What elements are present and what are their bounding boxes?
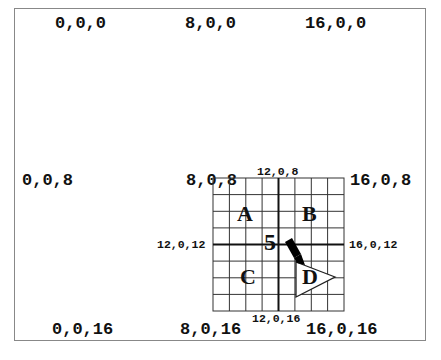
diamond-marker-icon [285,238,301,258]
quadrant-d: D [302,266,318,288]
marker-number: 5 [264,230,276,254]
quadrant-b: B [302,203,317,225]
quadrant-c: C [240,266,256,288]
grid-diagram [0,0,441,360]
quadrant-a: A [237,203,253,225]
axis-lines [213,178,344,311]
